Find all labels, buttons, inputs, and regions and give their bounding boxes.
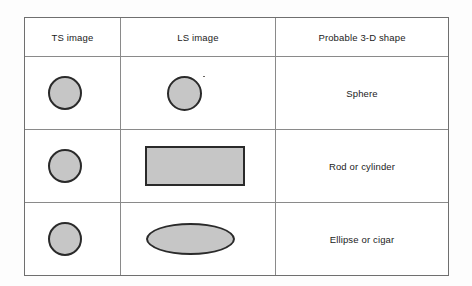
ts-shape-container-row3 — [25, 203, 120, 275]
table-row: Rod or cylinder — [25, 130, 449, 203]
cell-ts-image-row3 — [25, 203, 121, 276]
ts-shape-container-row2 — [25, 130, 120, 202]
column-header-ls-image-label: LS image — [177, 32, 218, 43]
table-header-row: TS image LS image Probable 3-D shape — [25, 18, 449, 57]
rectangle-shape-icon — [145, 146, 245, 186]
ellipse-shape-icon — [146, 223, 235, 255]
shape-classification-table: TS image LS image Probable 3-D shape — [24, 17, 449, 276]
ts-shape-container-row1 — [25, 57, 120, 129]
cell-ls-image-row3 — [121, 203, 276, 276]
shape-classification-table-wrapper: TS image LS image Probable 3-D shape — [24, 17, 448, 271]
ls-shape-container-row1 — [121, 57, 275, 129]
column-header-ts-image-label: TS image — [52, 32, 94, 43]
cell-ts-image-row2 — [25, 130, 121, 203]
cell-probable-shape-row3: Ellipse or cigar — [276, 203, 449, 276]
probable-shape-label: Sphere — [346, 88, 378, 99]
speck-artifact-icon — [203, 76, 205, 78]
circle-shape-icon — [167, 76, 202, 111]
cell-ts-image-row1 — [25, 57, 121, 130]
ls-shape-container-row3 — [121, 203, 275, 275]
column-header-ts-image: TS image — [25, 18, 121, 57]
circle-shape-icon — [48, 149, 82, 183]
cell-probable-shape-row2: Rod or cylinder — [276, 130, 449, 203]
ls-shape-container-row2 — [121, 130, 275, 202]
probable-shape-label: Ellipse or cigar — [330, 234, 395, 245]
circle-shape-icon — [48, 76, 82, 110]
column-header-probable-shape: Probable 3-D shape — [276, 18, 449, 57]
circle-shape-icon — [48, 222, 82, 256]
cell-ls-image-row2 — [121, 130, 276, 203]
cell-probable-shape-row1: Sphere — [276, 57, 449, 130]
table-row: Ellipse or cigar — [25, 203, 449, 276]
cell-ls-image-row1 — [121, 57, 276, 130]
table-row: Sphere — [25, 57, 449, 130]
column-header-probable-shape-label: Probable 3-D shape — [318, 32, 405, 43]
column-header-ls-image: LS image — [121, 18, 276, 57]
probable-shape-label: Rod or cylinder — [329, 161, 395, 172]
